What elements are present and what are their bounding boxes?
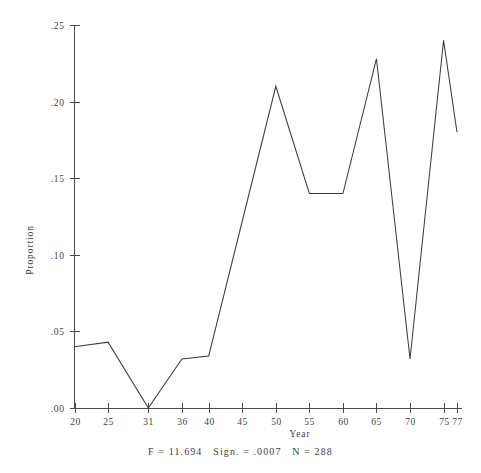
x-axis-title: Year xyxy=(289,429,310,439)
x-tick-label: 70 xyxy=(405,417,416,427)
data-series-group xyxy=(75,40,458,408)
x-tick-label: 40 xyxy=(204,417,215,427)
line-chart-plot: .00.05.10.15.20.25 Proportion 2025313640… xyxy=(0,0,481,473)
y-axis-title: Proportion xyxy=(25,225,35,275)
chart-figure: .00.05.10.15.20.25 Proportion 2025313640… xyxy=(0,0,481,473)
x-tick-group: 20253136404550556065707577 xyxy=(70,403,463,427)
data-line-proportion xyxy=(75,40,458,408)
x-tick-label: 20 xyxy=(70,417,81,427)
x-axis-group: 20253136404550556065707577 Year xyxy=(70,403,463,439)
y-tick-label: .05 xyxy=(51,327,65,337)
x-tick-label: 75 xyxy=(439,417,450,427)
y-axis-group: .00.05.10.15.20.25 Proportion xyxy=(25,21,80,414)
y-tick-label: .15 xyxy=(51,174,65,184)
x-tick-label: 31 xyxy=(143,417,154,427)
y-tick-label: .10 xyxy=(51,251,65,261)
x-tick-label: 77 xyxy=(452,417,463,427)
x-tick-label: 36 xyxy=(177,417,188,427)
figure-caption: F = 11.694 Sign. = .0007 N = 288 xyxy=(0,446,481,457)
x-tick-label: 60 xyxy=(338,417,349,427)
y-tick-group: .00.05.10.15.20.25 xyxy=(51,21,80,414)
x-tick-label: 55 xyxy=(304,417,315,427)
x-tick-label: 45 xyxy=(237,417,248,427)
y-tick-label: .25 xyxy=(51,21,65,31)
x-tick-label: 65 xyxy=(371,417,382,427)
y-tick-label: .20 xyxy=(51,98,65,108)
x-tick-label: 50 xyxy=(271,417,282,427)
y-tick-label: .00 xyxy=(51,404,65,414)
x-tick-label: 25 xyxy=(103,417,114,427)
